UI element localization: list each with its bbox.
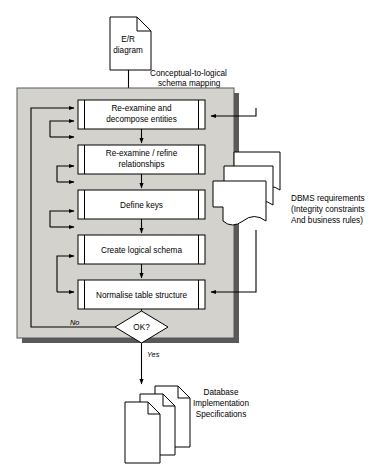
yes-branch-label: Yes bbox=[147, 350, 160, 359]
er-document-label-line2: diagram bbox=[113, 46, 143, 55]
step-1-label-line2: decompose entities bbox=[106, 115, 177, 124]
decision-label: OK? bbox=[133, 323, 150, 332]
input-document-er-diagram: E/R diagram bbox=[110, 17, 151, 70]
step-2-label-line2: relationships bbox=[119, 160, 165, 169]
step-2-label-line1: Re-examine / refine bbox=[106, 149, 178, 158]
step-4-label-line1: Create logical schema bbox=[101, 246, 182, 255]
flowchart-diagram: E/R diagram Conceptual-to-logical schema… bbox=[0, 0, 391, 466]
process-step-3: Define keys bbox=[78, 190, 205, 219]
output-label-line2: Implementation bbox=[193, 399, 249, 408]
process-step-1: Re-examine and decompose entities bbox=[78, 100, 205, 129]
output-documents: Database Implementation Specifications bbox=[125, 386, 249, 463]
input-edge-label-line2: schema mapping bbox=[158, 79, 221, 88]
no-branch-label: No bbox=[70, 318, 79, 327]
output-document-sheet-1 bbox=[125, 402, 160, 463]
process-step-5: Normalise table structure bbox=[78, 280, 205, 309]
dbms-label-line2: (Integrity constraints bbox=[291, 205, 365, 214]
step-5-label-line1: Normalise table structure bbox=[96, 291, 187, 300]
output-label-line1: Database bbox=[203, 388, 238, 397]
dbms-requirements-documents: DBMS requirements (Integrity constraints… bbox=[213, 152, 365, 225]
er-document-label-line1: E/R bbox=[121, 35, 135, 44]
process-step-4: Create logical schema bbox=[78, 235, 205, 264]
dbms-label-line3: And business rules) bbox=[291, 216, 363, 225]
process-step-2: Re-examine / refine relationships bbox=[78, 145, 205, 174]
dbms-label-line1: DBMS requirements bbox=[291, 194, 365, 203]
yes-branch: Yes bbox=[142, 343, 160, 384]
step-3-label-line1: Define keys bbox=[120, 201, 163, 210]
flowchart-canvas: E/R diagram Conceptual-to-logical schema… bbox=[0, 0, 391, 466]
input-edge-label-line1: Conceptual-to-logical bbox=[150, 69, 227, 78]
step-1-label-line1: Re-examine and bbox=[111, 104, 172, 113]
output-label-line3: Specifications bbox=[196, 410, 247, 419]
